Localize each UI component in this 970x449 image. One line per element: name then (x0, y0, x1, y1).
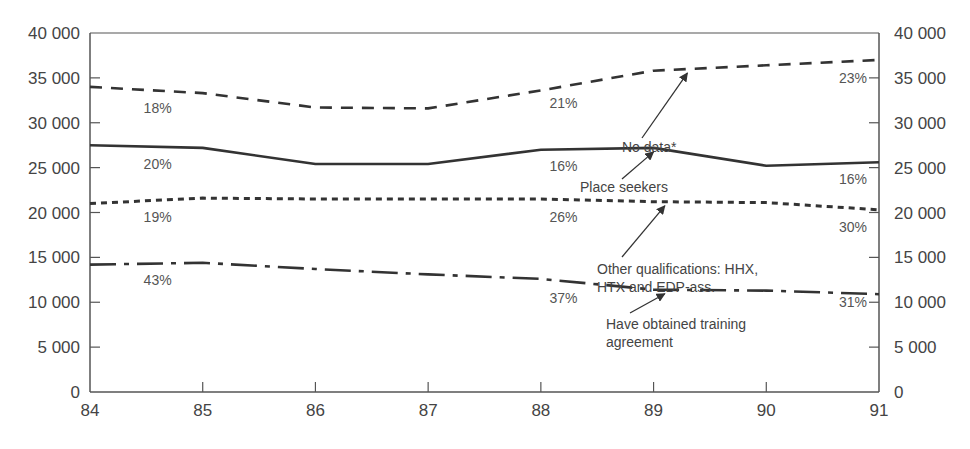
y-tick-label-right: 10 000 (894, 293, 946, 312)
percent-label: 31% (839, 294, 867, 310)
line-chart: 005 0005 00010 00010 00015 00015 00020 0… (0, 0, 970, 449)
percent-label: 16% (839, 171, 867, 187)
annotation-label: HTX and EDP-ass. (597, 279, 715, 295)
percent-label: 23% (839, 70, 867, 86)
annotation-label: Place seekers (580, 179, 668, 195)
y-tick-label-right: 25 000 (894, 159, 946, 178)
percent-label: 20% (144, 156, 172, 172)
percent-label: 21% (549, 95, 577, 111)
annotation-arrow-icon (622, 152, 654, 179)
y-tick-label-left: 10 000 (28, 293, 80, 312)
x-tick-label: 88 (531, 401, 550, 420)
x-tick-label: 90 (757, 401, 776, 420)
percent-label: 16% (549, 158, 577, 174)
series-layer (90, 60, 879, 294)
annotation-label: Have obtained training (606, 316, 746, 332)
x-tick-label: 85 (193, 401, 212, 420)
x-tick-label: 84 (81, 401, 100, 420)
y-tick-label-right: 5 000 (894, 338, 937, 357)
series-line-no-data (90, 60, 879, 109)
annotation-label: Other qualifications: HHX, (597, 261, 758, 277)
y-tick-label-right: 40 000 (894, 24, 946, 43)
y-tick-label-left: 30 000 (28, 114, 80, 133)
annotations-layer: No data*Place seekersOther qualification… (580, 73, 758, 350)
x-tick-label: 87 (419, 401, 438, 420)
percent-label: 30% (839, 219, 867, 235)
x-tick-label: 86 (306, 401, 325, 420)
y-tick-label-left: 20 000 (28, 204, 80, 223)
y-tick-label-left: 35 000 (28, 69, 80, 88)
labels-layer: 18%21%23%20%16%16%19%26%30%43%37%31% (144, 70, 867, 310)
y-tick-label-right: 15 000 (894, 248, 946, 267)
y-tick-label-left: 15 000 (28, 248, 80, 267)
series-line-have-obtained-training-agreement (90, 263, 879, 294)
percent-label: 19% (144, 209, 172, 225)
series-line-place-seekers (90, 145, 879, 166)
y-tick-label-left: 25 000 (28, 159, 80, 178)
y-tick-label-right: 30 000 (894, 114, 946, 133)
x-tick-label: 89 (644, 401, 663, 420)
y-tick-label-right: 35 000 (894, 69, 946, 88)
percent-label: 43% (144, 272, 172, 288)
percent-label: 18% (144, 100, 172, 116)
percent-label: 26% (549, 209, 577, 225)
y-tick-label-left: 5 000 (37, 338, 80, 357)
annotation-label: agreement (606, 334, 673, 350)
y-tick-label-left: 40 000 (28, 24, 80, 43)
annotation-label: No data* (622, 139, 677, 155)
annotation-arrow-icon (642, 73, 687, 138)
y-tick-label-right: 0 (894, 383, 903, 402)
y-tick-label-right: 20 000 (894, 204, 946, 223)
series-line-other-qualifications-hhx-htx-and-edp-ass (90, 198, 879, 210)
percent-label: 37% (549, 290, 577, 306)
annotation-arrow-icon (630, 294, 665, 313)
x-tick-label: 91 (870, 401, 889, 420)
y-tick-label-left: 0 (71, 383, 80, 402)
annotation-arrow-icon (622, 206, 665, 257)
